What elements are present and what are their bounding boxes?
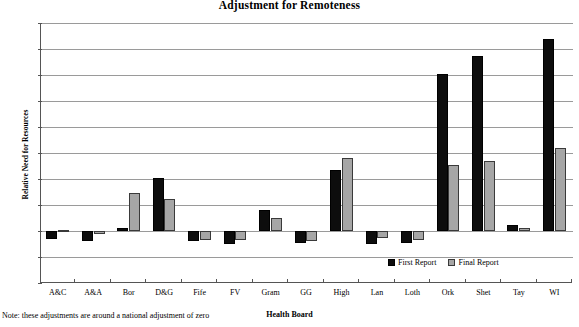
bar-group: [501, 23, 536, 283]
chart-legend: First Report Final Report: [388, 258, 499, 267]
x-axis-tick-label: D&G: [146, 288, 181, 297]
bar-group: [395, 23, 430, 283]
legend-label-final-report: Final Report: [458, 258, 498, 267]
x-axis-tick-label: Loth: [395, 288, 430, 297]
bar-final-report[interactable]: [448, 165, 459, 231]
y-axis-title: Relative Need for Resources: [21, 90, 30, 220]
bar-group: [111, 23, 146, 283]
bar-group: [359, 23, 394, 283]
bar-final-report[interactable]: [94, 231, 105, 234]
x-axis-tick-label: Ork: [430, 288, 465, 297]
bar-final-report[interactable]: [306, 231, 317, 241]
bar-group: [217, 23, 252, 283]
chart-title: Adjustment for Remoteness: [0, 0, 579, 11]
bar-first-report[interactable]: [224, 231, 235, 244]
bar-group: [324, 23, 359, 283]
bar-group: [288, 23, 323, 283]
bar-first-report[interactable]: [82, 231, 93, 241]
y-axis-tick-mark: [38, 283, 42, 284]
bar-final-report[interactable]: [164, 199, 175, 232]
bar-first-report[interactable]: [295, 231, 306, 243]
x-axis-tick-label: WI: [537, 288, 572, 297]
bar-final-report[interactable]: [377, 231, 388, 238]
bar-group: [182, 23, 217, 283]
legend-item-first-report: First Report: [388, 258, 436, 267]
bar-final-report[interactable]: [200, 231, 211, 240]
x-axis-tick-label: Fife: [182, 288, 217, 297]
bar-first-report[interactable]: [366, 231, 377, 244]
bar-final-report[interactable]: [235, 231, 246, 240]
bar-first-report[interactable]: [401, 231, 412, 243]
x-axis-tick-label: FV: [217, 288, 252, 297]
bar-first-report[interactable]: [153, 178, 164, 231]
x-axis-tick-label: Tay: [501, 288, 536, 297]
bar-group: [75, 23, 110, 283]
bar-group: [146, 23, 181, 283]
bar-first-report[interactable]: [259, 210, 270, 231]
bar-final-report[interactable]: [271, 218, 282, 231]
x-axis-tick-label: A&C: [40, 288, 75, 297]
bar-group: [430, 23, 465, 283]
bar-first-report[interactable]: [472, 56, 483, 232]
legend-swatch-first-report: [388, 259, 395, 266]
bar-first-report[interactable]: [330, 170, 341, 231]
bar-first-report[interactable]: [117, 228, 128, 231]
bar-group: [40, 23, 75, 283]
x-axis-tick-label: Gram: [253, 288, 288, 297]
legend-item-final-report: Final Report: [448, 258, 498, 267]
x-axis-title: Health Board: [0, 310, 579, 319]
x-axis-tick-label: Shet: [466, 288, 501, 297]
x-axis-tick-label: Lan: [359, 288, 394, 297]
bar-group: [537, 23, 572, 283]
x-axis-tick-labels: A&CA&ABorD&GFifeFVGramGGHighLanLothOrkSh…: [40, 288, 572, 297]
bar-final-report[interactable]: [58, 230, 69, 232]
x-axis-tick-label: High: [324, 288, 359, 297]
bar-first-report[interactable]: [437, 74, 448, 231]
bar-final-report[interactable]: [555, 148, 566, 231]
bar-group: [466, 23, 501, 283]
bar-final-report[interactable]: [129, 193, 140, 231]
legend-swatch-final-report: [448, 259, 455, 266]
bar-first-report[interactable]: [188, 231, 199, 241]
bar-final-report[interactable]: [342, 158, 353, 231]
x-axis-tick-label: GG: [288, 288, 323, 297]
bar-first-report[interactable]: [46, 231, 57, 239]
x-axis-tick-mark: [571, 279, 572, 283]
bar-groups: [40, 23, 572, 283]
chart-container: Adjustment for Remoteness Relative Need …: [0, 0, 579, 327]
bar-first-report[interactable]: [507, 225, 518, 232]
bar-final-report[interactable]: [413, 231, 424, 240]
bar-first-report[interactable]: [543, 39, 554, 231]
bar-final-report[interactable]: [519, 228, 530, 231]
bar-group: [253, 23, 288, 283]
legend-label-first-report: First Report: [398, 258, 436, 267]
x-axis-tick-label: A&A: [75, 288, 110, 297]
bar-final-report[interactable]: [484, 161, 495, 231]
x-axis-tick-label: Bor: [111, 288, 146, 297]
